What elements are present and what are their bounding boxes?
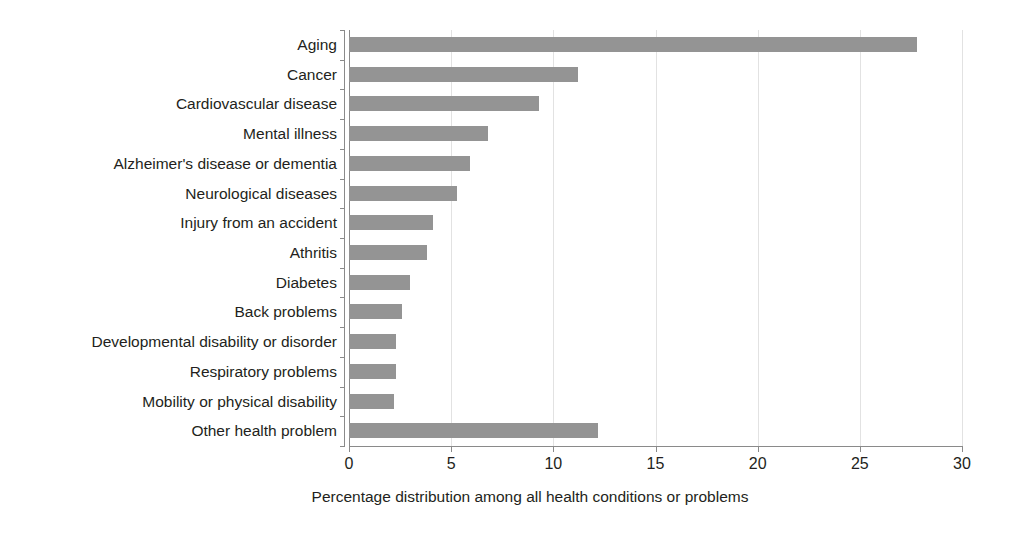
bar-row	[349, 179, 962, 209]
category-label: Alzheimer's disease or dementia	[113, 149, 337, 179]
x-axis-tick-label: 25	[851, 455, 869, 473]
category-label: Diabetes	[276, 268, 337, 298]
bar-row	[349, 387, 962, 417]
x-axis-tick	[758, 446, 759, 452]
category-label: Neurological diseases	[185, 179, 337, 209]
bar-row	[349, 30, 962, 60]
bar-row	[349, 119, 962, 149]
x-axis-tick-label: 30	[953, 455, 971, 473]
x-axis-tick-label: 5	[447, 455, 456, 473]
y-axis-tick	[340, 446, 345, 447]
bar	[349, 67, 578, 82]
bar	[349, 186, 457, 201]
bar-row	[349, 60, 962, 90]
gridline-30	[962, 30, 963, 446]
bar-row	[349, 357, 962, 387]
bar	[349, 275, 410, 290]
plot-area	[349, 30, 962, 446]
bar	[349, 156, 470, 171]
category-label: Athritis	[290, 238, 337, 268]
category-label: Respiratory problems	[190, 357, 337, 387]
category-label: Aging	[297, 30, 337, 60]
bar	[349, 215, 433, 230]
x-axis-tick	[962, 446, 963, 452]
bar	[349, 364, 396, 379]
category-label: Cancer	[287, 60, 337, 90]
bar	[349, 245, 427, 260]
category-label: Cardiovascular disease	[176, 89, 337, 119]
category-label: Back problems	[234, 297, 337, 327]
bar-chart: AgingCancerCardiovascular diseaseMental …	[0, 0, 1020, 536]
x-axis-title: Percentage distribution among all health…	[0, 488, 1020, 506]
category-label: Injury from an accident	[180, 208, 337, 238]
category-label: Mental illness	[243, 119, 337, 149]
x-axis-tick	[553, 446, 554, 452]
bar	[349, 304, 402, 319]
x-axis-tick	[349, 446, 350, 452]
x-axis-tick-label: 10	[544, 455, 562, 473]
category-label: Developmental disability or disorder	[91, 327, 337, 357]
x-axis-tick	[860, 446, 861, 452]
x-axis-tick-label: 0	[345, 455, 354, 473]
x-axis-title-text: Percentage distribution among all health…	[312, 488, 749, 506]
x-axis-tick-label: 20	[749, 455, 767, 473]
category-axis: AgingCancerCardiovascular diseaseMental …	[0, 30, 345, 446]
x-axis-tick-label: 15	[647, 455, 665, 473]
bar	[349, 394, 394, 409]
bar	[349, 334, 396, 349]
x-axis-tick	[656, 446, 657, 452]
category-label: Other health problem	[191, 416, 337, 446]
bar-row	[349, 238, 962, 268]
bar	[349, 96, 539, 111]
bar-rows	[349, 30, 962, 446]
bar-row	[349, 416, 962, 446]
x-axis-tick	[451, 446, 452, 452]
bar-row	[349, 297, 962, 327]
y-axis-line	[344, 30, 345, 446]
bar-row	[349, 268, 962, 298]
bar-row	[349, 208, 962, 238]
bar	[349, 126, 488, 141]
category-label: Mobility or physical disability	[142, 387, 337, 417]
bar	[349, 423, 598, 438]
bar	[349, 37, 917, 52]
bar-row	[349, 327, 962, 357]
bar-row	[349, 89, 962, 119]
bar-row	[349, 149, 962, 179]
